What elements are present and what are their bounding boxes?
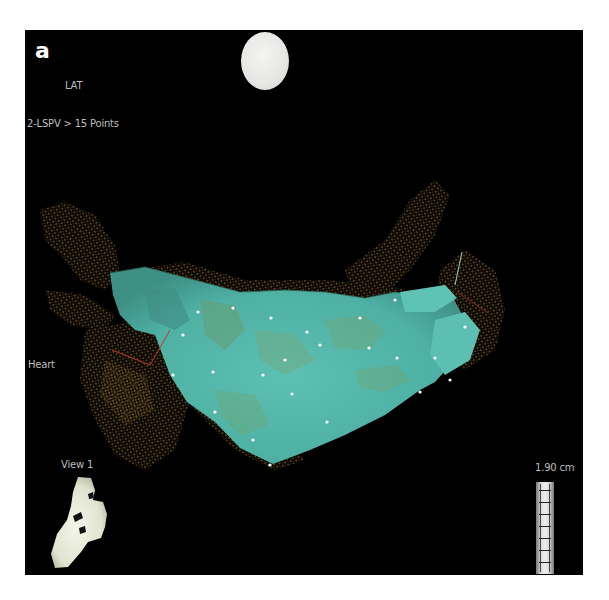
heart-orientation-icon[interactable] bbox=[43, 472, 123, 572]
panel-letter: a bbox=[35, 40, 50, 62]
map-type-label: LAT bbox=[65, 80, 82, 92]
catheter-label: Heart bbox=[28, 359, 55, 371]
scale-label: 1.90 cm bbox=[535, 462, 574, 474]
orientation-sphere-icon[interactable] bbox=[241, 32, 289, 90]
3d-map-viewport[interactable]: a LAT 2-LSPV > 15 Points Heart View 1 1.… bbox=[25, 30, 583, 575]
map-name-label: 2-LSPV > 15 Points bbox=[27, 118, 119, 130]
view-label: View 1 bbox=[61, 459, 93, 471]
ruler-icon bbox=[536, 482, 554, 574]
